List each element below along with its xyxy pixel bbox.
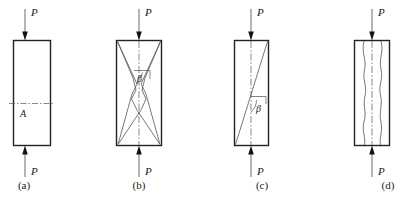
specimen-outline-a [14,41,51,146]
top-load-label-b: P [144,6,152,18]
area-label-a: A [19,108,27,119]
angle-label-c: β [255,103,261,114]
top-load-arrow-a [22,9,28,41]
panel-a: P A P (a) [9,6,55,192]
bottom-load-arrow-c [248,146,254,178]
top-load-label-a: P [30,6,38,18]
bottom-load-label-b: P [144,165,152,177]
bottom-load-label-d: P [377,165,385,177]
bottom-load-arrow-b [136,146,142,178]
panel-b: P β P [117,6,162,192]
caption-c: (c) [256,179,269,192]
caption-b: (b) [133,179,146,192]
panel-c: P β P (c) [235,6,269,192]
caption-d: (d) [382,179,395,192]
bottom-load-label-c: P [256,165,264,177]
bottom-load-arrow-a [22,146,28,178]
compression-failure-figure: P A P (a) P [0,0,407,201]
angle-label-b: β [136,73,142,84]
top-load-arrow-c [248,9,254,41]
top-load-label-c: P [256,6,264,18]
top-load-label-d: P [377,6,385,18]
panel-d: P P (d) [355,6,395,192]
top-load-arrow-b [136,9,142,41]
bottom-load-label-a: P [30,165,38,177]
bottom-load-arrow-d [369,146,375,178]
caption-a: (a) [18,179,31,192]
top-load-arrow-d [369,9,375,41]
